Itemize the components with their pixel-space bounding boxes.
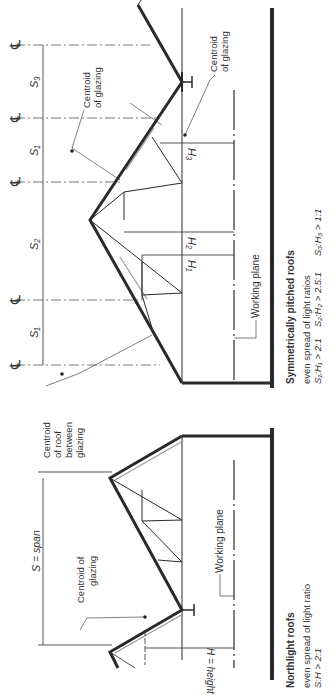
roof-profile: [110, 436, 182, 668]
centroid-roof-label: Centroid: [41, 422, 52, 458]
centroid-leader-1: [72, 148, 120, 180]
truss: [110, 478, 182, 562]
northlight-ratio: S:H > 2:1: [312, 648, 323, 688]
span-label: S = span: [30, 530, 42, 572]
centroid-leader: [80, 617, 145, 630]
height-label-h2: H₂: [186, 237, 198, 250]
centroid-roof-label: glazing: [74, 428, 85, 458]
northlight-title: Northlight roofs: [285, 612, 296, 688]
working-plane-leader: [234, 320, 256, 338]
centroid-leader-1b: [72, 110, 84, 148]
centerline-symbols: ℄ ℄ ℄ ℄ ℄: [7, 40, 23, 370]
centroid-glazing-label: of glazing: [219, 31, 230, 72]
ratio-s3h3: S₃:H₃ > 1:1: [312, 209, 323, 256]
roof-lighting-diagram: ℄ ℄ ℄ ℄ ℄ S₃ S₁ S₂ S₁ H₃ H₂ H₁ Centroid …: [0, 0, 336, 697]
span-label-s1: S₁: [28, 327, 40, 338]
glazing-strip: [115, 441, 183, 480]
centroid-roof-leader: [46, 335, 152, 386]
centroid-roof-label: between: [63, 422, 74, 458]
northlight-roof-drawing: [38, 428, 272, 680]
centroid-glazing-label: Centroid of: [75, 556, 86, 603]
centroid-glazing-label: Centroid: [208, 36, 219, 72]
centroid-leader-2: [130, 103, 162, 125]
centroid-glazing-label: of glazing: [92, 67, 103, 108]
symmetric-title: Symmetrically pitched roofs: [285, 250, 296, 384]
span-label-s1: S₁: [28, 145, 40, 156]
height-label-h3: H₃: [186, 148, 198, 161]
centroid-glazing-label: Centroid: [81, 72, 92, 108]
centroid-glazing-label: glazing: [87, 556, 98, 586]
truss-right: [90, 220, 182, 328]
roof-profile-right: [138, 0, 160, 5]
height-label-h1: H₁: [186, 260, 198, 272]
centerline-icon: ℄: [7, 360, 23, 370]
span-label-s2: S₂: [28, 238, 40, 250]
height-label: H = height: [205, 648, 216, 695]
northlight-subtitle: even spread of light ratio: [301, 584, 312, 688]
ratio-s2h2: S₂:H₂ > 2.5:1: [312, 272, 323, 327]
centerline-icon: ℄: [7, 177, 23, 187]
centroid-leader-2b: [185, 75, 215, 135]
centerline-icon: ℄: [7, 295, 23, 305]
centerline-icon: ℄: [7, 40, 23, 50]
working-plane-label: Working plane: [214, 509, 225, 573]
working-plane-leader: [220, 574, 234, 596]
centroid-roof-label: of roof: [52, 431, 63, 458]
centerline-icon: ℄: [7, 113, 23, 123]
glazing-strip: [115, 614, 183, 653]
ratio-s1h1: S₁:H₁ > 2:1: [312, 338, 323, 384]
symmetric-subtitle: even spread of light ratios: [301, 275, 312, 384]
symmetric-roof-drawing: [15, 0, 272, 388]
working-plane-label: Working plane: [250, 254, 261, 318]
roof-profile: [90, 5, 182, 383]
span-label-s3: S₃: [28, 76, 40, 88]
glazing-strip: [126, 128, 154, 170]
centroid-dot: [143, 615, 147, 619]
